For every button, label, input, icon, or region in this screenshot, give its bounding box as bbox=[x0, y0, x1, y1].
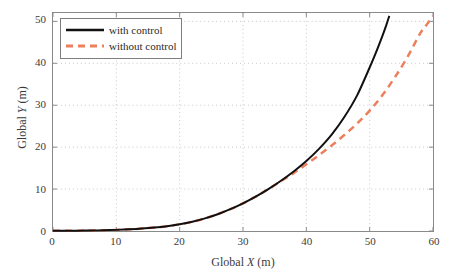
x-axis-tick-labels: 0102030405060 bbox=[52, 236, 434, 252]
x-tick-label: 50 bbox=[355, 236, 385, 247]
y-axis-title-variable: Y bbox=[15, 106, 29, 113]
x-axis-title-suffix: (m) bbox=[254, 255, 274, 269]
legend-item-without-control: without control bbox=[65, 38, 177, 54]
x-axis-title: Global X (m) bbox=[52, 255, 434, 270]
x-tick-label: 30 bbox=[228, 236, 258, 247]
y-axis-title: Global Y (m) bbox=[15, 58, 30, 178]
legend-sample-solid-line bbox=[65, 24, 105, 36]
x-tick-label: 20 bbox=[164, 236, 194, 247]
y-tick-label: 30 bbox=[35, 99, 46, 110]
y-tick-label: 20 bbox=[35, 141, 46, 152]
legend-label-without-control: without control bbox=[109, 40, 177, 52]
legend-label-with-control: with control bbox=[109, 24, 162, 36]
x-tick-label: 60 bbox=[419, 236, 449, 247]
x-tick-label: 0 bbox=[37, 236, 67, 247]
x-tick-label: 10 bbox=[101, 236, 131, 247]
chart-figure: 01020304050 0102030405060 Global X (m) G… bbox=[0, 0, 458, 278]
legend-sample-dashed-line bbox=[65, 40, 105, 52]
y-axis-title-suffix: (m) bbox=[15, 86, 29, 106]
y-tick-label: 50 bbox=[35, 14, 46, 25]
x-axis-title-prefix: Global bbox=[211, 255, 247, 269]
y-axis-title-prefix: Global bbox=[15, 113, 29, 149]
x-tick-label: 40 bbox=[292, 236, 322, 247]
legend-item-with-control: with control bbox=[65, 22, 177, 38]
chart-legend: with control without control bbox=[60, 18, 182, 59]
y-tick-label: 10 bbox=[35, 184, 46, 195]
y-tick-label: 40 bbox=[35, 57, 46, 68]
